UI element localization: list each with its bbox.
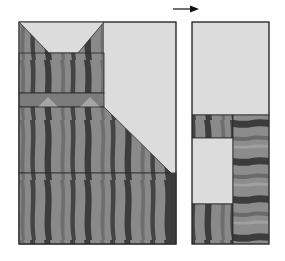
background-top xyxy=(192,22,269,115)
right-panel xyxy=(192,22,269,244)
background-square xyxy=(192,138,233,204)
base-strip xyxy=(19,173,176,244)
small-striped-bottom xyxy=(192,204,233,244)
tail-strip xyxy=(233,115,269,244)
small-striped-square xyxy=(192,115,233,138)
quilt-diagram xyxy=(0,0,285,261)
chin-strip xyxy=(19,93,104,107)
arrow-right-icon xyxy=(173,6,199,13)
head xyxy=(19,53,104,93)
ears-row xyxy=(19,22,104,53)
left-panel xyxy=(19,22,176,244)
